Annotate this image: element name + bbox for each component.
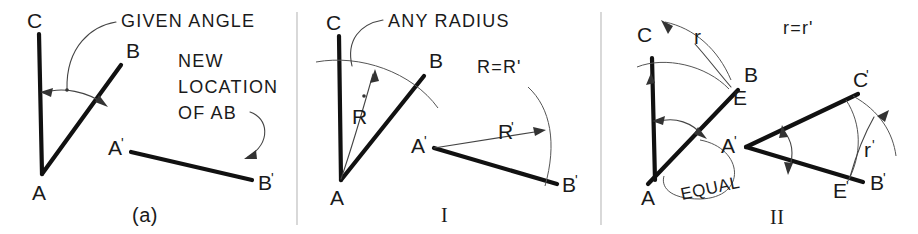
angle-transfer-figure: C B A GIVEN ANGLE NEW LOCATION OF AB A '… [0, 0, 918, 234]
pt-a-label: A [32, 181, 47, 204]
chord-r-label: r [694, 25, 702, 48]
pt-c-prime-label: C ' [853, 67, 869, 91]
pt-a-prime-label: A ' [108, 135, 124, 159]
radius-r-label: R [352, 105, 368, 128]
pt-a-label: A [330, 186, 345, 209]
svg-text:': ' [846, 178, 849, 194]
pt-a-prime-label: A ' [411, 133, 427, 157]
svg-text:': ' [121, 135, 124, 151]
new-location-note-line2: LOCATION [178, 77, 278, 97]
panel-i-caption: I [441, 204, 448, 226]
svg-text:r: r [864, 138, 872, 161]
figure-background [0, 0, 918, 234]
line-ac [652, 58, 655, 180]
r-equals-r-prime-note: R=R' [477, 57, 522, 77]
pt-a-label: A [641, 186, 656, 209]
new-location-note-line3: OF AB [178, 103, 237, 123]
given-angle-leader-dot [65, 88, 69, 92]
svg-text:': ' [866, 67, 869, 83]
pt-b-label: B [429, 49, 444, 72]
pt-b-prime-label: B ' [258, 170, 274, 194]
svg-text:': ' [575, 172, 578, 188]
line-ac [39, 34, 42, 174]
pt-b-prime-label: B ' [562, 172, 578, 196]
pt-e-prime-label: E ' [833, 178, 849, 202]
pt-b-label: B [744, 63, 759, 86]
pt-c-label: C [637, 23, 653, 46]
svg-text:': ' [872, 137, 875, 153]
svg-text:': ' [271, 170, 274, 186]
svg-text:I: I [441, 204, 448, 226]
pt-c-label: C [326, 11, 342, 34]
pt-b-label: B [126, 39, 141, 62]
svg-text:': ' [734, 133, 737, 149]
any-radius-note: ANY RADIUS [388, 11, 510, 31]
svg-text:': ' [424, 133, 427, 149]
svg-text:': ' [511, 119, 514, 135]
line-ac [339, 36, 341, 180]
svg-text:': ' [883, 170, 886, 186]
panel-ii-caption: II [770, 206, 784, 228]
pt-a-prime-label: A ' [721, 133, 737, 157]
pt-b-prime-label: B ' [870, 170, 886, 194]
new-location-note-line1: NEW [178, 51, 224, 71]
panel-a-caption: (a) [132, 204, 158, 226]
pt-e-label: E [733, 86, 748, 109]
r-equals-r-prime-note: r=r' [783, 18, 814, 38]
given-angle-note: GIVEN ANGLE [121, 11, 255, 31]
radius-r-dot [362, 94, 366, 98]
pt-c-label: C [27, 9, 43, 32]
radius-r-prime-label: R ' [498, 119, 514, 143]
